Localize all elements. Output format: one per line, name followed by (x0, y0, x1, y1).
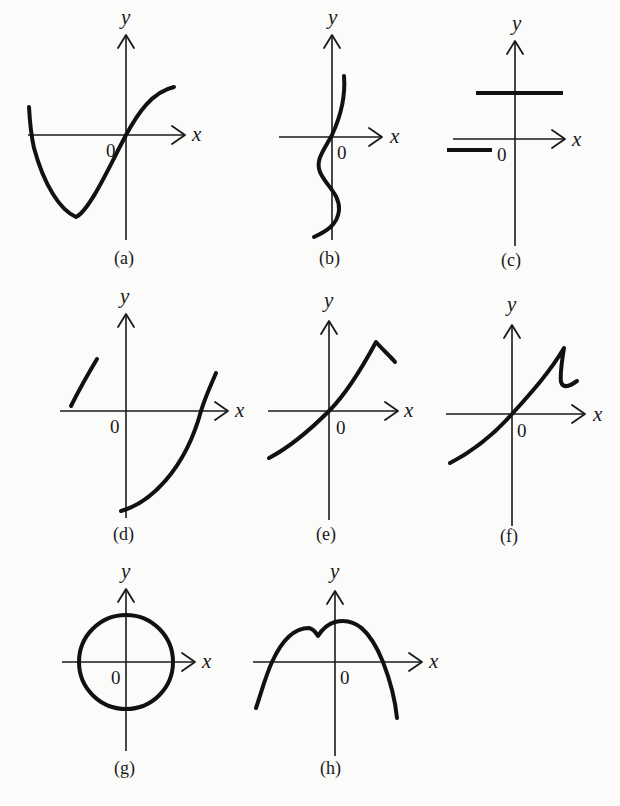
panel-caption: (d) (113, 524, 134, 545)
y-axis-label: y (326, 5, 338, 29)
x-axis-label: x (234, 398, 245, 422)
x-axis-label: x (428, 649, 439, 673)
panel-caption: (b) (319, 248, 340, 269)
panel-caption: (f) (500, 526, 518, 547)
x-axis-label: x (592, 402, 603, 426)
y-axis-label: y (322, 288, 334, 312)
y-axis-label: y (118, 284, 130, 308)
y-axis-label: y (505, 292, 517, 316)
y-axis-label: y (328, 559, 340, 583)
origin-label: 0 (337, 142, 347, 163)
origin-label: 0 (497, 144, 507, 165)
panel-caption: (g) (114, 758, 135, 779)
panel-caption: (c) (501, 250, 521, 271)
panel-caption: (h) (320, 758, 341, 779)
origin-label: 0 (111, 667, 121, 688)
x-axis-label: x (571, 127, 582, 151)
panel-caption: (e) (316, 524, 336, 545)
origin-label: 0 (110, 416, 120, 437)
x-axis-label: x (201, 649, 212, 673)
origin-label: 0 (340, 667, 350, 688)
x-axis-label: x (191, 122, 202, 146)
x-axis-label: x (389, 124, 400, 148)
y-axis-label: y (119, 559, 131, 583)
panel-caption: (a) (114, 248, 134, 269)
y-axis-label: y (510, 11, 522, 35)
origin-label: 0 (336, 417, 346, 438)
function-graphs-figure: y x 0 (a) y x 0 (b) y x 0 (c) y x (0, 0, 620, 806)
origin-label: 0 (517, 420, 527, 441)
origin-label: 0 (106, 140, 116, 161)
x-axis-label: x (403, 398, 414, 422)
y-axis-label: y (119, 5, 131, 29)
